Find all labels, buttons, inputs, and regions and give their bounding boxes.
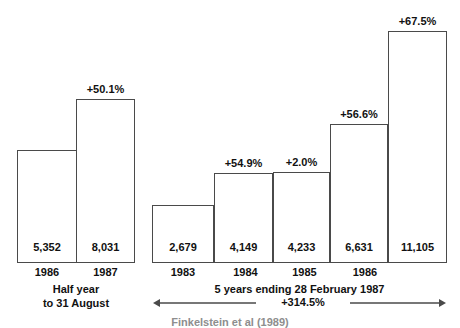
bar-five-year-1987 — [388, 31, 447, 263]
bar-year-five-year-1983: 1983 — [152, 266, 214, 278]
bar-value-five-year-1986: 6,631 — [330, 241, 388, 253]
baseline-five-year — [152, 262, 447, 263]
group-caption-half-year-line1: Half year — [8, 283, 144, 295]
bar-growth-five-year-1984: +54.9% — [214, 157, 273, 169]
baseline-half-year — [17, 262, 135, 263]
total-growth-arrow: +314.5% — [152, 296, 447, 310]
bar-growth-five-year-1985: +2.0% — [273, 156, 330, 168]
bar-growth-half-year-1987: +50.1% — [76, 83, 135, 95]
total-growth-label: +314.5% — [256, 296, 350, 308]
bar-year-five-year-1985: 1985 — [276, 266, 333, 278]
bar-year-five-year-1984: 1984 — [216, 266, 275, 278]
bar-value-five-year-1987: 11,105 — [388, 241, 447, 253]
bar-value-five-year-1983: 2,679 — [152, 241, 214, 253]
group-caption-five-year: 5 years ending 28 February 1987 — [152, 283, 447, 295]
footer-partial-text: Finkelstein et al (1989) — [0, 316, 460, 328]
bar-year-five-year-1986: 1986 — [336, 266, 394, 278]
bar-value-half-year-1986: 5,352 — [17, 241, 77, 253]
bar-value-half-year-1987: 8,031 — [76, 241, 135, 253]
bar-half-year-1987 — [76, 99, 135, 263]
group-caption-half-year-line2: to 31 August — [8, 297, 144, 309]
bar-value-five-year-1985: 4,233 — [273, 241, 330, 253]
bar-value-five-year-1984: 4,149 — [214, 241, 273, 253]
bar-year-half-year-1987: 1987 — [76, 266, 135, 278]
bar-growth-five-year-1986: +56.6% — [330, 108, 388, 120]
bar-year-half-year-1986: 1986 — [17, 266, 77, 278]
bar-growth-five-year-1987: +67.5% — [388, 15, 447, 27]
bar-five-year-1983 — [152, 205, 214, 263]
